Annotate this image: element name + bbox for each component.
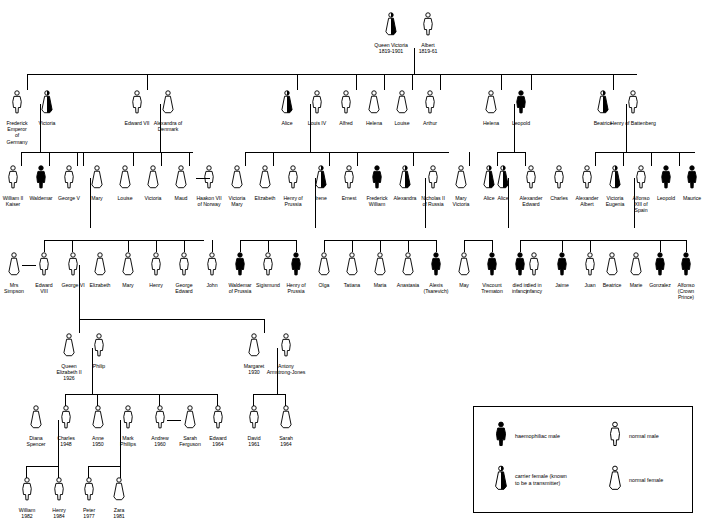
person-label: Maurice <box>669 195 706 201</box>
person-node[interactable]: Alfonso (Crown Prince) <box>663 252 706 301</box>
male-figure-icon <box>405 12 451 42</box>
person-label: Philip <box>76 363 122 369</box>
connector-line <box>324 240 325 252</box>
connector-line <box>514 104 515 152</box>
legend-label: carrier female (known to be a transmitte… <box>515 473 567 487</box>
connector-line <box>520 240 686 241</box>
connector-line <box>92 348 93 394</box>
connector-line <box>147 74 148 90</box>
connector-line <box>79 319 80 333</box>
connector-line <box>40 104 41 152</box>
connector-line <box>253 394 254 406</box>
male-figure-icon <box>606 421 624 451</box>
connector-line <box>156 240 157 252</box>
connector-line <box>65 394 66 406</box>
person-node[interactable]: Antony Armstrong-Jones <box>263 333 309 375</box>
connector-line <box>79 319 264 320</box>
connector-line <box>44 240 45 252</box>
connector-line <box>120 420 121 466</box>
female-figure-icon <box>96 477 142 507</box>
connector-line <box>469 152 470 166</box>
connector-line <box>196 178 210 179</box>
connector-line <box>352 240 353 252</box>
connector-line <box>595 152 596 166</box>
connector-line <box>253 394 285 395</box>
female-figure-icon <box>263 405 309 435</box>
person-label: Henry of Battenberg <box>610 120 656 126</box>
connector-line <box>520 240 521 252</box>
connector-line <box>212 240 213 252</box>
connector-line <box>58 466 59 478</box>
connector-line <box>58 420 59 466</box>
connector-line <box>21 152 83 153</box>
connector-line <box>525 152 526 166</box>
person-label: Sarah 1964 <box>263 435 309 447</box>
connector-line <box>660 240 661 252</box>
connector-line <box>413 152 414 166</box>
connector-line <box>240 240 241 252</box>
person-label: Alfonso (Crown Prince) <box>663 282 706 301</box>
connector-line <box>277 348 278 394</box>
male-figure-icon <box>492 421 510 451</box>
connector-line <box>184 240 185 252</box>
connector-line <box>440 74 441 90</box>
male-figure-icon <box>663 252 706 282</box>
legend-label: normal male <box>629 433 659 440</box>
person-node[interactable]: Sarah 1964 <box>263 405 309 447</box>
connector-line <box>21 152 22 166</box>
connector-line <box>679 152 680 166</box>
connector-line <box>77 152 78 166</box>
female-figure-icon <box>606 465 624 495</box>
connector-line <box>492 240 493 252</box>
connector-line <box>297 74 298 90</box>
legend-item-normal-male: normal male <box>606 421 659 451</box>
person-node[interactable]: Henry of Battenberg <box>610 90 656 126</box>
connector-line <box>634 178 635 228</box>
connector-line <box>626 104 627 152</box>
person-node[interactable]: Leopold <box>498 90 544 126</box>
person-node[interactable]: Zara 1981 <box>96 477 142 519</box>
legend-label: normal female <box>629 477 663 484</box>
connector-line <box>161 152 162 166</box>
connector-line <box>531 74 532 90</box>
connector-line <box>26 466 58 467</box>
person-node[interactable]: Philip <box>76 333 122 369</box>
connector-line <box>296 240 297 252</box>
person-node[interactable]: Albert 1819-61 <box>405 12 451 54</box>
connector-line <box>27 74 637 75</box>
connector-line <box>90 178 91 228</box>
connector-line <box>508 178 509 228</box>
connector-line <box>88 466 120 467</box>
connector-line <box>356 74 357 90</box>
male-figure-icon <box>407 90 453 120</box>
connector-line <box>72 240 73 252</box>
person-node[interactable]: Maurice <box>669 165 706 201</box>
male-figure-icon <box>610 90 656 120</box>
connector-line <box>329 152 330 166</box>
person-node[interactable]: Alexandra of Denmark <box>145 90 191 132</box>
connector-line <box>651 152 652 166</box>
legend-item-normal-female: normal female <box>606 465 663 495</box>
connector-line <box>273 152 274 166</box>
connector-line <box>217 394 218 406</box>
connector-line <box>159 394 160 406</box>
connector-line <box>436 240 437 252</box>
legend-label: haemophiliac male <box>515 433 560 440</box>
connector-line <box>49 152 50 166</box>
connector-line <box>497 152 525 153</box>
connector-line <box>88 466 89 478</box>
person-label: Zara 1981 <box>96 507 142 519</box>
connector-line <box>414 48 415 74</box>
connector-line <box>264 319 265 333</box>
connector-line <box>497 152 498 166</box>
person-node[interactable]: Victoria <box>24 90 70 126</box>
connector-line <box>65 394 217 395</box>
connector-line <box>26 466 27 478</box>
person-label: Albert 1819-61 <box>405 42 451 54</box>
legend-box: haemophiliac male normal male carrier fe… <box>473 406 693 513</box>
person-node[interactable]: Arthur <box>407 90 453 126</box>
connector-line <box>160 104 161 152</box>
person-label: Leopold <box>498 120 544 126</box>
connector-line <box>79 265 80 319</box>
connector-line <box>384 74 385 90</box>
